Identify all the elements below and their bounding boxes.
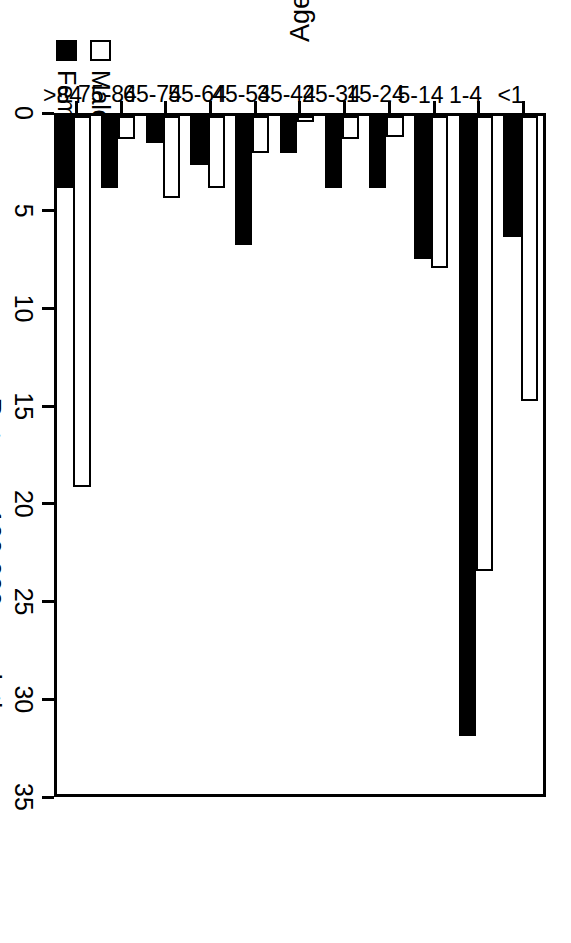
value-tick [42,698,54,701]
value-tick [42,112,54,115]
value-tick [42,307,54,310]
value-tick-label: 15 [9,392,38,420]
category-axis-title: Age [285,0,316,42]
filled-square-icon [57,40,78,61]
value-tick-label: 10 [9,295,38,323]
value-tick [42,405,54,408]
value-tick [42,600,54,603]
value-tick-label: 25 [9,588,38,616]
value-tick [42,502,54,505]
category-tick-label: 75-84 [78,82,137,109]
value-tick-label: 5 [9,204,38,218]
value-tick [42,796,54,799]
category-tick-label: >84 [43,82,82,109]
value-tick-label: 20 [9,490,38,518]
figure: Male Female Rate per 100,000 population … [0,0,571,943]
value-axis-title: Rate per 100,000 population [0,398,6,739]
category-tick-label: <1 [497,82,523,109]
hollow-square-icon [91,40,112,61]
value-tick [42,209,54,212]
value-tick-label: 35 [9,783,38,811]
category-tick-label: 1-4 [449,82,482,109]
value-tick-label: 0 [9,106,38,120]
value-tick-label: 30 [9,685,38,713]
category-axis: Age <11-45-1415-2425-3435-4445-5455-6465… [54,113,546,797]
